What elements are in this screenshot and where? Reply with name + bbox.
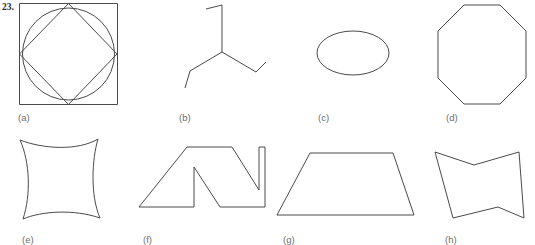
branch-lower-left xyxy=(185,52,222,88)
branch-lower-right xyxy=(222,52,266,72)
figure-label-d: (d) xyxy=(446,112,458,123)
figure-label-e: (e) xyxy=(22,234,34,245)
figure-label-g: (g) xyxy=(283,234,295,245)
figure-b xyxy=(183,5,271,91)
figure-label-f: (f) xyxy=(143,234,152,245)
figure-e xyxy=(18,137,104,223)
octagon-outline xyxy=(438,5,526,104)
inscribed-circle xyxy=(23,8,115,100)
figure-label-b: (b) xyxy=(179,112,191,123)
figure-f xyxy=(137,144,267,226)
figure-h xyxy=(433,150,526,222)
figure-label-c: (c) xyxy=(318,112,329,123)
figure-a xyxy=(19,3,118,105)
problem-number: 23. xyxy=(2,2,14,12)
figure-c xyxy=(316,30,392,78)
figure-label-a: (a) xyxy=(18,112,30,123)
inscribed-diamond xyxy=(20,4,118,105)
figure-g xyxy=(276,152,415,218)
trapezoid-outline xyxy=(277,153,414,215)
figure-d xyxy=(437,4,529,106)
figure-sheet: 23. (a) (b) (c) (d) (e) (f) (g) (h) xyxy=(0,0,535,245)
bowtie-hexagon-outline xyxy=(435,152,524,218)
branch-upper xyxy=(206,5,222,52)
outer-square xyxy=(20,4,118,105)
concave-square-outline xyxy=(20,139,100,219)
figure-label-h: (h) xyxy=(445,234,457,245)
ellipse-outline xyxy=(317,31,389,75)
n-block-outline xyxy=(139,147,265,207)
